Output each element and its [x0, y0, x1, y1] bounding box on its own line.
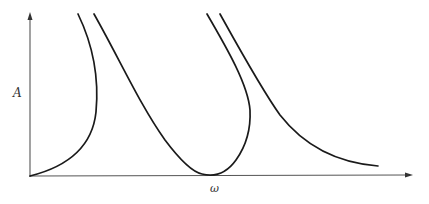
- x-axis: [30, 175, 406, 176]
- curve-left-bent-branch: [30, 14, 97, 176]
- y-axis-arrow-icon: [28, 12, 33, 20]
- curve-right-decaying-branch: [220, 14, 378, 166]
- x-axis-label: ω: [210, 182, 219, 195]
- x-axis-arrow-icon: [405, 173, 413, 178]
- curve-middle-resonance: [94, 14, 250, 175]
- response-diagram: [0, 0, 429, 204]
- y-axis-label: A: [13, 86, 22, 100]
